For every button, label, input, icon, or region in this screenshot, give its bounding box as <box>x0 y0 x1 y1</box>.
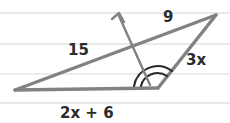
geometry-figure: 15 9 3x 2x + 6 <box>0 0 230 123</box>
label-side-9: 9 <box>163 8 173 26</box>
label-base-2x-plus-6: 2x + 6 <box>60 104 114 122</box>
label-side-3x: 3x <box>186 51 206 69</box>
side-2x-plus-6-stroke <box>15 88 158 90</box>
diagram-canvas: 15 9 3x 2x + 6 <box>0 0 230 123</box>
label-side-15: 15 <box>68 41 89 59</box>
